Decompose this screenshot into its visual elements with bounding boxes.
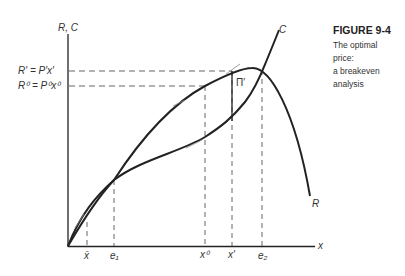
x-tick-x-bar: x̄: [84, 251, 89, 261]
x-axis-label: x: [318, 241, 323, 251]
x-tick-e1: e₁: [110, 251, 119, 261]
y-tick-r-prime: R′ = P′x′: [18, 66, 54, 76]
y-axis-label: R, C: [58, 23, 78, 33]
revenue-curve-label: R: [312, 199, 319, 209]
cost-curve: [68, 30, 279, 246]
tangent-mark-c: [186, 140, 202, 148]
profit-label: Π′: [236, 78, 245, 88]
caption-line: The optimal: [333, 39, 405, 52]
x-tick-e2: e₂: [258, 251, 267, 261]
figure-caption: FIGURE 9-4 The optimal price: a breakeve…: [333, 24, 405, 91]
caption-line: price:: [333, 52, 405, 65]
caption-line: analysis: [333, 78, 405, 91]
x-tick-x0: x⁰: [200, 250, 209, 260]
x-tick-x-prime: x′: [228, 250, 235, 260]
tangent-mark-r0: [173, 100, 185, 106]
y-tick-r-zero: R⁰ = P⁰x⁰: [18, 81, 60, 91]
revenue-curve: [68, 68, 310, 246]
caption-line: a breakeven: [333, 65, 405, 78]
figure-number: FIGURE 9-4: [333, 24, 405, 36]
cost-curve-label: C: [279, 25, 286, 35]
